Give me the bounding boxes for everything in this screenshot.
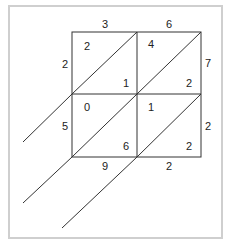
cell-0-1-tens: 4 bbox=[148, 38, 154, 50]
multiplicand-digit-1: 3 bbox=[102, 18, 108, 30]
cell-1-0-ones: 6 bbox=[123, 140, 129, 152]
lattice-grid: 3 6 2 5 2 1 4 2 0 6 1 2 7 2 9 2 bbox=[0, 0, 231, 247]
right-result-digit-1: 7 bbox=[205, 57, 211, 69]
bottom-result-digit-2: 2 bbox=[166, 160, 172, 172]
cell-1-1-tens: 1 bbox=[148, 101, 154, 113]
bottom-result-digit-1: 9 bbox=[102, 160, 108, 172]
cell-1-1-ones: 2 bbox=[186, 140, 192, 152]
diagonal-tail-3 bbox=[62, 157, 137, 228]
cell-0-1-ones: 2 bbox=[186, 77, 192, 89]
multiplier-digit-2: 5 bbox=[62, 120, 68, 132]
right-result-digit-2: 2 bbox=[205, 120, 211, 132]
diagonal-tail-2 bbox=[23, 157, 72, 203]
cell-1-0-tens: 0 bbox=[84, 101, 90, 113]
cell-0-0-ones: 1 bbox=[123, 77, 129, 89]
multiplicand-digit-2: 6 bbox=[166, 18, 172, 30]
cell-0-0-tens: 2 bbox=[84, 40, 90, 52]
multiplier-digit-1: 2 bbox=[62, 58, 68, 70]
diagonal-tail-1 bbox=[23, 94, 72, 142]
